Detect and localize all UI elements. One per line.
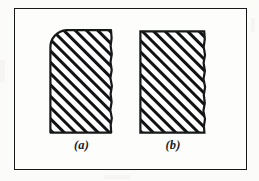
figure-root: (a) (b) <box>0 0 259 181</box>
hatched-block-square-corner <box>139 30 207 134</box>
caption-a: (a) <box>49 138 114 153</box>
shape-b-graphic <box>139 30 207 134</box>
caption-b: (b) <box>139 138 207 153</box>
hatched-block-rounded-corner <box>49 29 114 134</box>
shape-a-hatch-fill <box>49 29 114 134</box>
figure-stage: (a) (b) <box>0 0 259 181</box>
shape-a-graphic <box>49 29 114 134</box>
shape-b-hatch-fill <box>139 30 207 134</box>
